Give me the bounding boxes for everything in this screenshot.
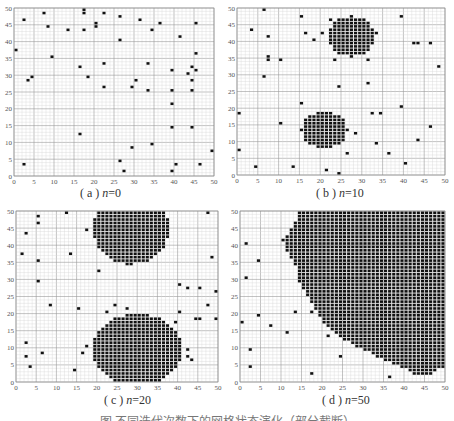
chart-d: 0510152025303540455005101520253035404550 [0,0,454,421]
caption-label: ( d ) [322,393,345,407]
x-tick-label: 50 [442,384,450,392]
y-tick-label: 15 [231,327,239,335]
x-tick-label: 35 [380,384,388,392]
figure-caption: 图 不同迭代次数下的网格状态演化（部分截断） [100,412,355,421]
y-tick-label: 35 [231,259,239,267]
y-tick-label: 10 [231,344,239,352]
x-tick-label: 0 [238,384,242,392]
y-tick-label: 0 [235,379,239,387]
y-tick-label: 20 [231,310,239,318]
caption-value: =50 [351,393,370,407]
y-tick-label: 45 [231,225,239,233]
y-tick-label: 50 [231,208,239,216]
x-tick-label: 30 [360,384,368,392]
x-tick-label: 10 [278,384,286,392]
x-tick-label: 20 [319,384,327,392]
y-tick-label: 5 [235,361,239,369]
y-tick-label: 25 [231,293,239,301]
x-tick-label: 5 [259,384,263,392]
x-tick-label: 25 [339,384,347,392]
y-tick-label: 40 [231,242,239,250]
x-tick-label: 40 [401,384,409,392]
x-tick-label: 45 [421,384,429,392]
x-tick-label: 15 [298,384,306,392]
y-tick-label: 30 [231,276,239,284]
panel-caption-d: ( d ) n=50 [322,393,370,408]
